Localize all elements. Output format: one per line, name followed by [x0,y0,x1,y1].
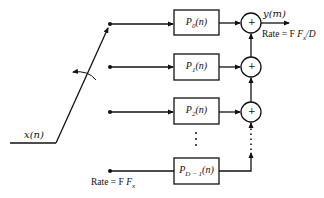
filter-label-p2: P2(n) [174,105,219,118]
ellipsis-dot [195,144,197,146]
contact-dot-3 [108,169,112,173]
adder-2-symbol: + [248,107,256,116]
output-rate-label: Rate = F Fx/D [262,30,316,42]
filter-label-pd1: PD − 1(n) [174,165,219,178]
ellipsis-dot [195,132,197,134]
contact-dot-1 [108,65,112,69]
adder-1-symbol: + [248,62,256,71]
input-label: x(n) [24,130,44,140]
commutator-arm [56,28,108,143]
filter-label-p1: P1(n) [174,61,219,74]
ellipsis-dot [195,138,197,140]
contact-dot-0 [108,22,112,26]
filter-out-3 [219,156,251,171]
contact-dot-2 [108,110,112,114]
adder-0-symbol: + [248,18,256,27]
filter-label-p0: P0(n) [174,17,219,30]
input-rate-label: Rate = F xFx [91,178,135,190]
output-label: y(m) [263,9,286,19]
